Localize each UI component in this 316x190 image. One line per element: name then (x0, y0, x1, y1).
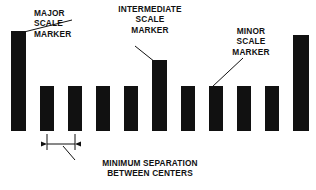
dimension-arrow-left (41, 141, 47, 146)
label-minor-scale-marker: MINOR SCALE MARKER (208, 26, 294, 57)
scale-marker-major-10 (293, 35, 309, 131)
label-intermediate-line-3: MARKER (100, 25, 200, 35)
scale-marker-minor-6 (181, 86, 195, 131)
label-intermediate-line-1: INTERMEDIATE (100, 4, 200, 14)
scale-marker-minor-9 (265, 86, 279, 131)
label-intermediate-line-2: SCALE (100, 14, 200, 24)
label-minimum-line-1: MINIMUM SEPARATION (70, 158, 230, 168)
label-intermediate-scale-marker: INTERMEDIATE SCALE MARKER (100, 4, 200, 35)
label-major-line-3: MARKER (34, 29, 71, 39)
label-minor-line-1: MINOR (208, 26, 294, 36)
scale-marker-minor-3 (96, 86, 110, 131)
scale-marker-major-0 (11, 31, 26, 131)
label-minimum-separation: MINIMUM SEPARATION BETWEEN CENTERS (70, 158, 230, 179)
scale-marker-minor-7 (209, 86, 223, 131)
dimension-arrow-right (75, 141, 81, 146)
label-major-scale-marker: MAJOR SCALE MARKER (34, 8, 71, 39)
dimension-bracket (41, 134, 81, 150)
scale-marker-minor-1 (40, 86, 54, 131)
scale-marker-minor-8 (237, 86, 251, 131)
intermediate-leader (135, 46, 155, 62)
scale-marker-minor-2 (68, 86, 82, 131)
minor-leader (212, 58, 243, 87)
scale-marker-intermediate-5 (152, 60, 167, 131)
label-minimum-line-2: BETWEEN CENTERS (70, 168, 230, 178)
scale-marker-minor-4 (124, 86, 138, 131)
scale-marker-diagram: MAJOR SCALE MARKER INTERMEDIATE SCALE MA… (0, 0, 316, 190)
label-major-line-2: SCALE (34, 18, 71, 28)
label-major-line-1: MAJOR (34, 8, 71, 18)
label-minor-line-2: SCALE (208, 36, 294, 46)
label-minor-line-3: MARKER (208, 47, 294, 57)
